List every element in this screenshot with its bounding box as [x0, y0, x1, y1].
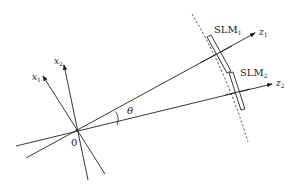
x1-label: x1	[32, 73, 41, 83]
diagram-geometry	[0, 0, 298, 192]
theta-label: θ	[127, 106, 133, 116]
origin-point	[76, 129, 78, 131]
x2-axis	[64, 65, 88, 180]
x2-label: x2	[54, 57, 63, 67]
slm1-plate	[207, 35, 231, 73]
z2-label: z2	[276, 79, 285, 89]
diagram-canvas: z1 z2 x1 x2 θ 0 SLM1 SLM2	[0, 0, 298, 192]
slm1-label: SLM1	[214, 25, 242, 36]
x1-axis	[43, 76, 105, 174]
origin-label: 0	[71, 138, 77, 148]
theta-arc	[116, 112, 119, 126]
z1-label: z1	[259, 28, 268, 38]
slm2-label: SLM2	[240, 68, 268, 79]
